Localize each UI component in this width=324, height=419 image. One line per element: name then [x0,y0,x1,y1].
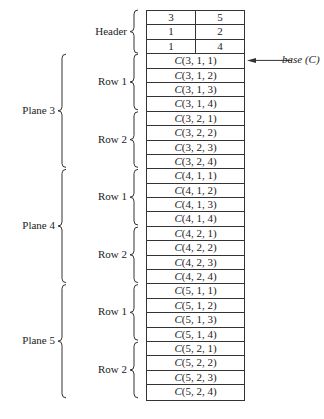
brace-icon [130,169,138,225]
plane-label: Plane 4 [22,219,55,231]
base-pointer-label: base (C) [282,53,320,65]
plane-label: Plane 3 [22,104,55,116]
arrowhead-icon [247,58,256,63]
brace-icon [58,285,66,398]
brace-icon [130,342,138,398]
row-label: Row 2 [98,363,127,375]
row-label: Row 2 [98,248,127,260]
brace-icon [130,54,138,110]
brace-icon [130,227,138,283]
row-label: Row 1 [98,305,127,317]
row-label: Row 1 [98,75,127,87]
brace-icon [58,54,66,167]
brace-icon [130,285,138,341]
plane-label: Plane 5 [22,334,55,346]
braces-layer [0,0,324,419]
brace-icon [130,112,138,168]
row-label: Row 2 [98,133,127,145]
brace-icon [130,10,138,53]
row-label: Row 1 [98,190,127,202]
brace-icon [58,169,66,282]
header-label: Header [95,25,127,37]
